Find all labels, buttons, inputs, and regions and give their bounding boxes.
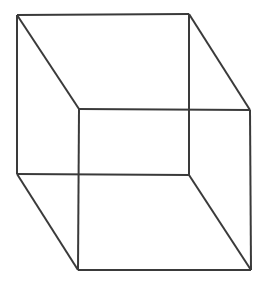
cube-edge-front-top: [79, 109, 250, 110]
cube-edge-back-top: [17, 14, 189, 15]
cube-edge-front-right: [250, 110, 251, 270]
cube-edge-front-left: [78, 109, 79, 270]
necker-cube-drawing: [0, 0, 267, 286]
drawing-background: [0, 0, 267, 286]
cube-edge-back-bottom: [17, 174, 189, 175]
figure-canvas: [0, 0, 267, 286]
